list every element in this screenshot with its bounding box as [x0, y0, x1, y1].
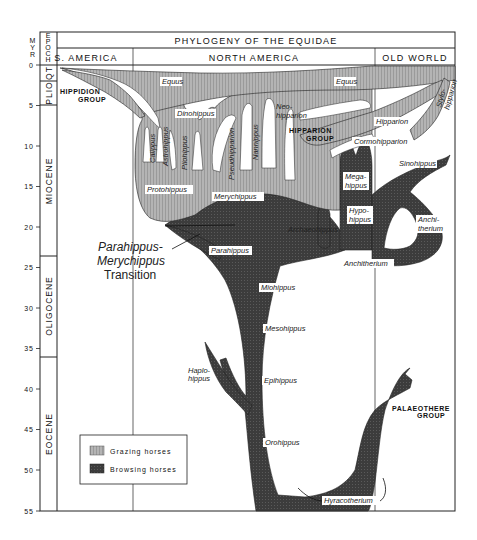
svg-text:R: R: [30, 51, 36, 58]
region-south-america: S. AMERICA: [54, 53, 118, 63]
label-haplohippus-2: hippus: [188, 374, 210, 383]
epoch-eocene: EOCENE: [44, 413, 54, 455]
hipparion-group-line1: HIPPARION: [289, 127, 332, 134]
epoch-oligocene: OLIGOCENE: [44, 276, 54, 336]
svg-text:H: H: [45, 56, 51, 63]
label-hipparion: Hipparion: [376, 117, 408, 126]
tick-40: 40: [24, 386, 34, 393]
label-protohippus: Protohippus: [147, 185, 187, 194]
epoch-miocene: MIOCENE: [44, 158, 54, 205]
myr-label: M Y R: [30, 37, 37, 58]
label-anchitherium-ow-1: Anchi-: [417, 215, 440, 224]
region-north-america: NORTH AMERICA: [209, 53, 299, 63]
label-sinohippus: Sinohippus: [399, 159, 436, 168]
label-anchitherium-na: Anchitherium: [343, 259, 388, 268]
tick-55: 55: [24, 508, 34, 515]
label-merychippus: Merychippus: [214, 192, 257, 201]
tick-15: 15: [24, 183, 34, 190]
time-axis: 0 5 10 15 20 25 30 35 40 45 50 55: [24, 62, 40, 515]
tick-30: 30: [24, 305, 34, 312]
legend-swatch-grazing: [90, 446, 104, 455]
label-pseudhipparion: Pseudhipparion: [227, 128, 236, 180]
legend: Grazing horses Browsing horses: [80, 435, 187, 484]
label-archaeohippus: Archaeohippus: [287, 225, 338, 234]
label-equus-na: Equus: [162, 77, 184, 86]
label-miohippus: Miohippus: [261, 283, 295, 292]
tick-5: 5: [29, 102, 34, 109]
tick-25: 25: [24, 264, 34, 271]
label-parahippus: Parahippus: [211, 246, 249, 255]
tick-0: 0: [29, 62, 34, 69]
label-megahippus-1: Mega-: [345, 172, 367, 181]
tick-10: 10: [24, 143, 34, 150]
svg-text:Y: Y: [30, 44, 36, 51]
label-hypohippus-2: hippus: [349, 215, 371, 224]
label-calippus: Calippus: [148, 134, 157, 163]
legend-swatch-browsing: [90, 464, 104, 473]
label-pliohippus: Pliohippus: [180, 135, 189, 170]
epoch-quaternary: QT: [44, 66, 54, 80]
label-neohipparion-2: hipparion: [276, 111, 307, 120]
label-dinohippus: Dinohippus: [177, 109, 215, 118]
hippidion-group-line1: HIPPIDION: [60, 88, 100, 95]
label-orohippus: Orohippus: [265, 438, 300, 447]
transition-line1: Parahippus-: [98, 240, 163, 254]
label-megahippus-2: hippus: [345, 181, 367, 190]
label-astrohippus: Astrohippus: [161, 126, 170, 167]
epoch-pliocene: PLIO: [44, 81, 54, 104]
palaeothere-group-line1: PALAEOTHERE: [392, 405, 450, 412]
svg-text:M: M: [30, 37, 37, 44]
label-anchitherium-ow-2: therium: [418, 224, 443, 233]
diagram-title: PHYLOGENY OF THE EQUIDAE: [174, 36, 337, 46]
legend-grazing-label: Grazing horses: [110, 448, 171, 456]
transition-line2: Merychippus: [97, 254, 165, 268]
legend-browsing-label: Browsing horses: [110, 466, 177, 474]
label-epihippus: Epihippus: [264, 376, 297, 385]
tick-45: 45: [24, 426, 34, 433]
phylogeny-diagram: PHYLOGENY OF THE EQUIDAE S. AMERICA NORT…: [0, 0, 477, 540]
palaeothere-group-line2: GROUP: [417, 412, 445, 419]
label-neohipparion-1: Neo-: [276, 102, 293, 111]
tick-50: 50: [24, 467, 34, 474]
label-nannippus: Nannippus: [251, 124, 260, 160]
region-old-world: OLD WORLD: [382, 53, 447, 63]
transition-line3: Transition: [104, 268, 156, 282]
hipparion-group-line2: GROUP: [306, 135, 334, 142]
label-equus-ow: Equus: [336, 77, 358, 86]
label-cormohipparion: Cormohipparion: [354, 137, 407, 146]
epoch-label: E P O C H: [45, 32, 51, 63]
tick-35: 35: [24, 345, 34, 352]
label-mesohippus: Mesohippus: [265, 324, 306, 333]
tick-20: 20: [24, 224, 34, 231]
label-hypohippus-1: Hypo-: [349, 206, 370, 215]
label-hyracotherium: Hyracotherium: [324, 496, 373, 505]
hippidion-group-line2: GROUP: [78, 96, 106, 103]
